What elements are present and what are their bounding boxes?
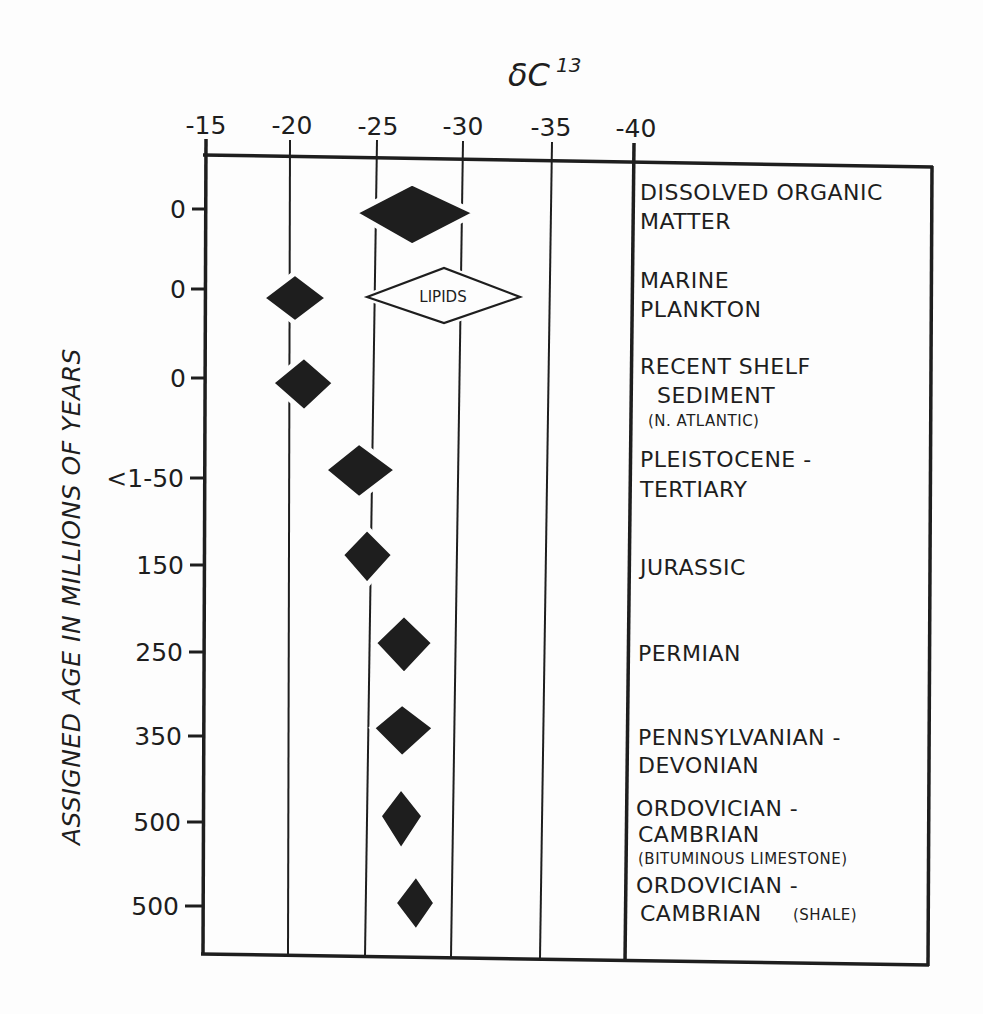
legend: DISSOLVED ORGANIC MATTER MARINE PLANKTON… (636, 180, 883, 926)
x-tick-label: -20 (272, 111, 313, 140)
x-tick-label: -35 (531, 113, 572, 142)
legend-sublabel: (SHALE) (793, 906, 857, 924)
legend-divider (625, 143, 634, 962)
legend-label: JURASSIC (638, 555, 746, 580)
legend-label: PLEISTOCENE - (640, 447, 812, 472)
y-axis-tick-labels: 0 0 0 <1-50 150 250 350 500 500 (106, 195, 186, 921)
x-tick-label: -15 (186, 111, 227, 140)
legend-label: DEVONIAN (638, 753, 759, 778)
diamond-marine-plankton (262, 273, 328, 323)
x-tick-label: -30 (443, 112, 484, 141)
diamond-recent-shelf-sediment (271, 356, 335, 412)
y-axis-line (203, 139, 206, 955)
legend-label: PENNSYLVANIAN - (638, 725, 841, 750)
bottom-border (201, 954, 929, 965)
gridline-minus20 (288, 140, 290, 955)
legend-label: MARINE (640, 268, 729, 293)
legend-label: SEDIMENT (657, 383, 775, 408)
lipids-marker: LIPIDS (367, 268, 520, 323)
y-tick-label: 0 (170, 275, 186, 304)
x-tick-label: -25 (358, 112, 399, 141)
x-tick-label: -40 (616, 114, 657, 143)
chart-frame (201, 139, 933, 966)
y-tick-label: 0 (170, 364, 186, 393)
diamond-permian (374, 614, 434, 675)
diamond-pleistocene-tertiary (324, 442, 397, 499)
gridline-minus30 (451, 141, 463, 957)
lipids-label: LIPIDS (419, 288, 466, 306)
gridline-minus35 (540, 142, 552, 958)
legend-label: RECENT SHELF (640, 354, 811, 379)
legend-label: PERMIAN (638, 641, 741, 666)
x-axis-title: δC 13 (508, 53, 581, 94)
legend-label: PLANKTON (640, 297, 761, 322)
diamond-ordovician-cambrian-limestone (379, 787, 424, 851)
legend-sublabel: (N. ATLANTIC) (648, 412, 759, 430)
legend-label: MATTER (640, 209, 731, 234)
diamond-ordovician-cambrian-shale (394, 874, 436, 932)
y-tick-label: 150 (136, 551, 184, 580)
y-tick-label: <1-50 (106, 464, 184, 493)
legend-label: ORDOVICIAN - (636, 873, 798, 898)
legend-sublabel: (BITUMINOUS LIMESTONE) (638, 850, 848, 868)
legend-label: DISSOLVED ORGANIC (640, 180, 883, 205)
legend-label: TERTIARY (639, 477, 747, 502)
y-tick-label: 350 (134, 722, 182, 751)
x-axis-tick-labels: -15 -20 -25 -30 -35 -40 (186, 111, 657, 143)
legend-label: CAMBRIAN (638, 822, 760, 847)
y-tick-label: 0 (170, 195, 186, 224)
y-axis-title: ASSIGNED AGE IN MILLIONS OF YEARS (57, 348, 86, 847)
legend-label: ORDOVICIAN - (636, 796, 798, 821)
y-tick-label: 500 (131, 892, 179, 921)
diamond-jurassic (341, 528, 394, 585)
diamond-pennsylvanian-devonian (372, 703, 435, 758)
top-border (203, 155, 933, 167)
x-axis-title-main: δC (508, 56, 551, 94)
diamond-dissolved-organic-matter (354, 183, 476, 246)
legend-label: CAMBRIAN (640, 901, 762, 926)
right-border (928, 166, 932, 966)
vertical-gridlines (288, 140, 552, 958)
y-tick-label: 500 (133, 808, 181, 837)
x-axis-title-superscript: 13 (556, 53, 581, 77)
y-tick-label: 250 (135, 638, 183, 667)
isotope-chart: δC 13 -15 -20 -25 -30 -35 -40 (0, 0, 983, 1014)
